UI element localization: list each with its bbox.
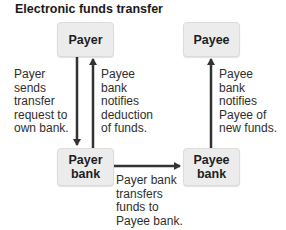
edge-label-payer-bank-to-payee-bank: Payer bank transfers funds to Payee bank… [116, 174, 183, 228]
edge-label-payer-to-payer-bank: Payer sends transfer request to own bank… [14, 68, 69, 136]
edge-label-payer-bank-to-payer: Payee bank notifies deduction of funds. [101, 68, 153, 136]
node-payee-bank-label: Payee bank [193, 153, 229, 181]
edge-label-payee-bank-to-payee: Payee bank notifies Payee of new funds. [219, 68, 277, 136]
node-payer-bank-label: Payer bank [68, 153, 102, 181]
node-payee-label: Payee [193, 33, 229, 47]
node-payee: Payee [183, 22, 240, 57]
node-payer-label: Payer [68, 33, 102, 47]
node-payer: Payer [57, 22, 114, 57]
node-payee-bank: Payee bank [183, 148, 240, 186]
node-payer-bank: Payer bank [57, 148, 114, 186]
